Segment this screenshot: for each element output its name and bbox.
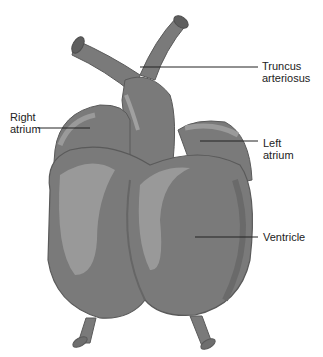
right-atrium-label-line2: atrium (10, 123, 41, 135)
left-atrium-label-line2: atrium (263, 149, 294, 161)
truncus-label-line1: Truncus (262, 60, 310, 72)
truncus-label-line2: arteriosus (262, 72, 310, 84)
truncus-arteriosus-label: Truncus arteriosus (262, 60, 310, 84)
left-atrium-label: Left atrium (263, 137, 294, 161)
bottom-left-vessel (71, 318, 96, 349)
right-atrium-label: Right atrium (10, 111, 41, 135)
left-atrium-label-line1: Left (263, 137, 294, 149)
ventricle-label: Ventricle (263, 231, 305, 243)
right-atrium-label-line1: Right (10, 111, 41, 123)
bottom-right-vessel (190, 316, 217, 351)
heart-diagram (0, 0, 323, 357)
ventricle (48, 147, 252, 318)
ventricle-label-text: Ventricle (263, 231, 305, 243)
